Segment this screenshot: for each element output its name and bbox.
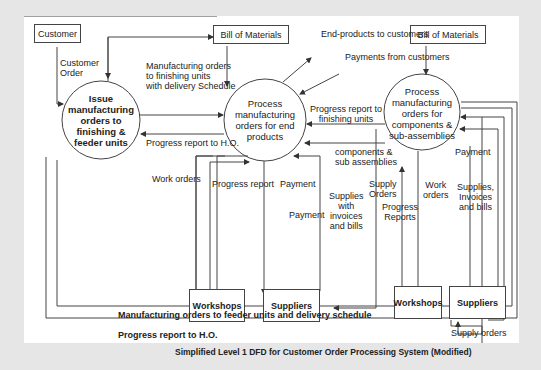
flow-work-orders-mid: Work orders [152,174,201,184]
process-2-label: Processmanufacturingorders for endproduc… [224,98,306,142]
flow-work-orders-right: Workorders [423,180,449,200]
flow-progress-finishing: Progress report tofinishing units [310,104,382,124]
flow-end-products: End-products to customers [321,29,429,39]
suppliers-mid-label: Suppliers [271,301,312,311]
flow-payments-customers: Payments from customers [345,52,450,62]
flow-supply-orders-mid: SupplyOrders [369,179,397,199]
bom-left-label: Bill of Materials [220,30,281,40]
customer-entity: Customer [34,24,81,43]
flow-supply-orders-right: Supply orders [451,328,507,338]
flow-supplies-invoices-mid: Supplieswithinvoicesand bills [329,191,364,231]
flow-mfg-orders-feeder: Manufacturing orders to feeder units and… [118,310,372,320]
customer-label: Customer [38,29,77,39]
diagram-page: Customer Bill of Materials Bill of Mater… [24,16,519,343]
process-3-label: Processmanufacturingorders forcomponents… [382,86,462,141]
process-1-label: Issuemanufacturingorders tofinishing &fe… [62,93,140,148]
diagram-caption: Simplified Level 1 DFD for Customer Orde… [175,347,472,357]
workshops-right-label: Workshops [394,298,443,308]
flow-supplies-invoices-right: Supplies,Invoicesand bills [457,182,494,212]
workshops-mid-label: Workshops [193,301,242,311]
flow-progress-reports-right: ProgressReports [382,202,418,222]
flow-progress-ho-bottom: Progress report to H.O. [118,330,218,340]
bill-of-materials-left: Bill of Materials [213,25,289,44]
flow-payment-mid-2: Payment [289,210,325,220]
flow-components: components &sub assemblies [335,147,397,167]
flow-mfg-orders-finishing: Manufacturing ordersto finishing unitswi… [146,61,236,91]
flow-progress-report-mid: Progress report [212,179,274,189]
flow-payment-right: Payment [455,147,491,157]
suppliers-right-label: Suppliers [457,298,498,308]
flow-payment-mid-1: Payment [280,179,316,189]
flow-progress-ho-mid: Progress report to H.O. [146,138,239,148]
flow-customer-order: CustomerOrder [60,58,99,78]
workshops-right-entity: Workshops [394,286,442,319]
suppliers-right-entity: Suppliers [449,286,506,319]
